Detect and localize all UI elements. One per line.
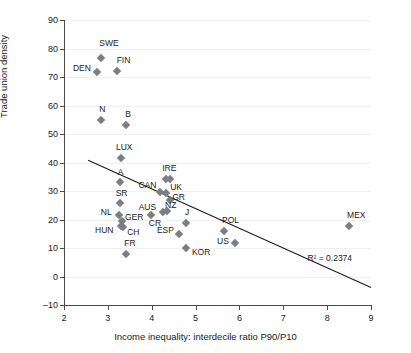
x-tick-mark — [108, 306, 109, 310]
data-point-label: UK — [170, 183, 182, 192]
y-tick-label: 10 — [26, 244, 58, 253]
x-tick-mark — [196, 306, 197, 310]
y-tick-mark — [60, 134, 64, 135]
y-tick-mark — [60, 191, 64, 192]
x-tick-label: 9 — [361, 314, 381, 323]
data-point-label: HUN — [95, 226, 113, 235]
data-point-label: GER — [125, 213, 143, 222]
y-tick-label: 20 — [26, 216, 58, 225]
y-tick-label: 80 — [26, 45, 58, 54]
x-tick-label: 6 — [229, 314, 249, 323]
y-tick-label: 70 — [26, 73, 58, 82]
x-tick-label: 5 — [186, 314, 206, 323]
x-tick-mark — [371, 306, 372, 310]
x-tick-mark — [152, 306, 153, 310]
data-point-label: J — [185, 208, 189, 217]
data-point-label: NL — [101, 208, 112, 217]
data-point-label: DEN — [73, 64, 91, 73]
y-tick-mark — [60, 20, 64, 21]
x-axis-line — [64, 305, 372, 306]
data-point-label: CAN — [138, 181, 156, 190]
x-tick-mark — [64, 306, 65, 310]
x-tick-mark — [283, 306, 284, 310]
data-point-label: A — [118, 168, 124, 177]
data-point-label: CH — [127, 228, 139, 237]
data-point-label: FR — [124, 239, 135, 248]
x-tick-label: 3 — [98, 314, 118, 323]
x-tick-mark — [327, 306, 328, 310]
scatter-chart-figure: SWEFINDENNBLUXAIRECANUKSRGRNZAUSNLGERHUN… — [0, 0, 411, 353]
x-tick-label: 4 — [142, 314, 162, 323]
y-tick-label: 40 — [26, 159, 58, 168]
y-tick-label: 0 — [26, 273, 58, 282]
y-tick-mark — [60, 77, 64, 78]
data-point-label: NZ — [165, 201, 176, 210]
x-axis-label: Income inequality: interdecile ratio P90… — [0, 331, 411, 342]
y-axis-line — [64, 20, 65, 306]
data-point-label: POL — [222, 216, 239, 225]
data-point-label: LUX — [116, 143, 133, 152]
y-axis-label: Trade union density — [0, 35, 9, 118]
data-point-label: FIN — [117, 56, 131, 65]
data-point-label: MEX — [347, 211, 365, 220]
y-tick-mark — [60, 220, 64, 221]
data-point-label: IRE — [162, 164, 176, 173]
y-tick-label: 90 — [26, 16, 58, 25]
data-point-label: SR — [116, 189, 128, 198]
data-point-label: KOR — [192, 248, 210, 257]
y-tick-mark — [60, 49, 64, 50]
y-tick-mark — [60, 277, 64, 278]
y-tick-label: 50 — [26, 130, 58, 139]
data-point-label: B — [125, 110, 131, 119]
y-tick-mark — [60, 248, 64, 249]
data-point-label: N — [99, 105, 105, 114]
y-tick-label: 30 — [26, 187, 58, 196]
data-point-label: US — [217, 237, 229, 246]
x-tick-label: 8 — [317, 314, 337, 323]
data-point-label: SWE — [99, 39, 118, 48]
y-tick-label: 60 — [26, 102, 58, 111]
data-point-label: AUS — [139, 203, 156, 212]
y-tick-mark — [60, 106, 64, 107]
y-tick-label: –10 — [26, 301, 58, 310]
x-tick-mark — [239, 306, 240, 310]
r-squared-annotation: R² = 0.2374 — [307, 253, 352, 263]
data-point-label: ESP — [157, 226, 174, 235]
x-tick-label: 7 — [273, 314, 293, 323]
plot-area: SWEFINDENNBLUXAIRECANUKSRGRNZAUSNLGERHUN… — [64, 20, 371, 305]
x-tick-label: 2 — [54, 314, 74, 323]
y-tick-mark — [60, 163, 64, 164]
